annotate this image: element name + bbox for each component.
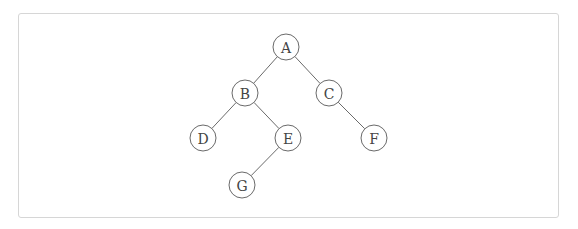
tree-node-e: E xyxy=(275,125,301,151)
tree-node-g: G xyxy=(229,172,255,198)
binary-tree-diagram: ABCDEFG xyxy=(0,0,578,229)
tree-node-c: C xyxy=(316,80,342,106)
node-label-g: G xyxy=(236,178,247,194)
node-label-e: E xyxy=(283,131,293,147)
node-label-f: F xyxy=(369,131,379,147)
edge-b-d xyxy=(212,103,236,129)
edges-layer xyxy=(212,56,365,175)
node-label-b: B xyxy=(240,86,250,102)
node-label-c: C xyxy=(324,86,335,102)
node-label-a: A xyxy=(280,40,292,56)
tree-node-f: F xyxy=(361,125,387,151)
tree-node-a: A xyxy=(273,34,299,60)
tree-node-b: B xyxy=(232,80,258,106)
edge-a-c xyxy=(295,56,320,83)
nodes-layer: ABCDEFG xyxy=(190,34,387,198)
edge-b-e xyxy=(254,102,279,128)
tree-node-d: D xyxy=(190,125,216,151)
edge-a-b xyxy=(254,57,278,84)
edge-e-g xyxy=(251,147,279,175)
node-label-d: D xyxy=(197,131,208,147)
edge-c-f xyxy=(338,102,365,129)
